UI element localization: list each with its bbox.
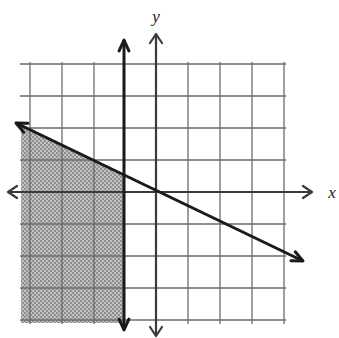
coordinate-plane-figure: x y [0, 0, 339, 338]
x-axis-label: x [327, 183, 336, 202]
graph-canvas: x y [0, 0, 339, 338]
y-axis-label: y [150, 7, 160, 26]
